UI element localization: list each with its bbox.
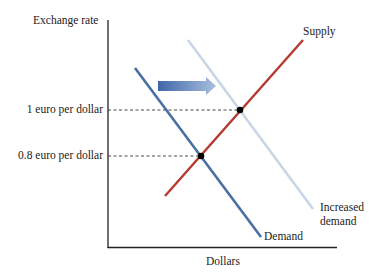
increased-demand-label-line1: Increased (320, 201, 364, 214)
demand-label: Demand (264, 230, 303, 243)
tick-label-high: 1 euro per dollar (27, 103, 103, 116)
tick-label-low: 0.8 euro per dollar (18, 149, 103, 162)
x-axis-label: Dollars (206, 255, 240, 268)
y-axis-label: Exchange rate (33, 14, 98, 27)
shift-arrow-icon (158, 77, 216, 95)
supply-curve (165, 40, 303, 196)
chart-canvas (0, 0, 382, 278)
equilibrium-point-high (237, 107, 244, 114)
demand-curve (135, 68, 261, 237)
supply-label: Supply (303, 25, 336, 38)
increased-demand-curve (188, 40, 313, 209)
increased-demand-label-line2: demand (320, 215, 356, 228)
equilibrium-point-low (198, 153, 205, 160)
